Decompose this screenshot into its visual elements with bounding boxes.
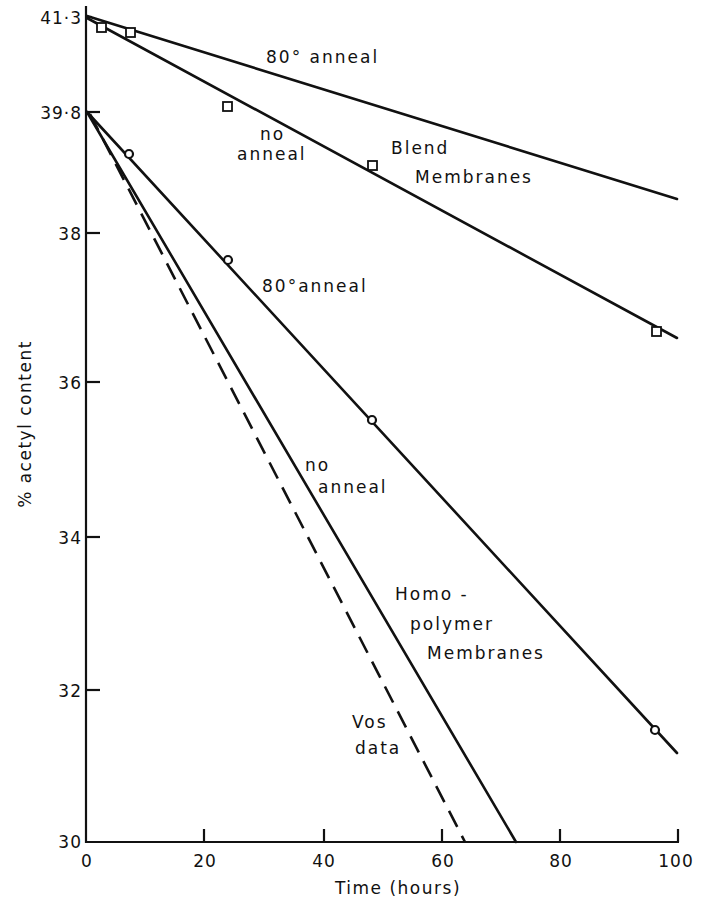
label-homo-no-anneal-1: no bbox=[305, 455, 330, 475]
y-tick-39-8: 39·8 bbox=[40, 103, 82, 123]
annotations: 80° anneal no anneal Blend Membranes 80°… bbox=[237, 47, 545, 758]
x-tick-0: 0 bbox=[81, 851, 93, 871]
label-homo-no-anneal-2: anneal bbox=[318, 477, 388, 497]
y-axis-title: % acetyl content bbox=[15, 340, 35, 508]
x-tick-20: 20 bbox=[193, 851, 217, 871]
y-tick-38: 38 bbox=[58, 224, 82, 244]
marker-circle bbox=[224, 256, 232, 264]
line-blend-no-anneal bbox=[87, 18, 677, 338]
acetyl-content-chart: 30 32 34 36 38 39·8 41·3 0 20 40 60 80 1… bbox=[0, 0, 702, 913]
label-blend-membranes-1: Blend bbox=[391, 138, 449, 158]
label-blend-80-anneal: 80° anneal bbox=[266, 47, 379, 67]
y-tick-30: 30 bbox=[58, 832, 82, 852]
x-tick-100: 100 bbox=[658, 851, 693, 871]
label-blend-membranes-2: Membranes bbox=[415, 167, 533, 187]
line-homo-80-anneal bbox=[87, 112, 677, 753]
marker-square bbox=[652, 327, 661, 336]
marker-square bbox=[97, 23, 106, 32]
marker-circle bbox=[125, 150, 133, 158]
label-homo-80-anneal: 80°anneal bbox=[262, 276, 368, 296]
y-tick-34: 34 bbox=[58, 528, 82, 548]
y-tick-36: 36 bbox=[58, 373, 82, 393]
label-blend-no-anneal-1: no bbox=[260, 124, 285, 144]
line-homo-no-anneal bbox=[87, 112, 516, 842]
label-homo-membranes-1: Homo - bbox=[395, 584, 469, 604]
label-blend-no-anneal-2: anneal bbox=[237, 144, 307, 164]
label-vos-data-1: Vos bbox=[352, 712, 388, 732]
marker-square bbox=[368, 161, 377, 170]
x-tick-80: 80 bbox=[549, 851, 573, 871]
y-tick-labels: 30 32 34 36 38 39·8 41·3 bbox=[40, 8, 82, 852]
y-tick-32: 32 bbox=[58, 681, 82, 701]
marker-circle bbox=[368, 416, 376, 424]
line-blend-80-anneal bbox=[87, 16, 677, 199]
label-vos-data-2: data bbox=[355, 738, 401, 758]
x-tick-60: 60 bbox=[431, 851, 455, 871]
marker-circle bbox=[651, 726, 659, 734]
x-tick-40: 40 bbox=[312, 851, 336, 871]
x-tick-labels: 0 20 40 60 80 100 bbox=[81, 851, 694, 871]
label-homo-membranes-3: Membranes bbox=[427, 643, 545, 663]
y-tick-41-3: 41·3 bbox=[40, 8, 82, 28]
line-vos-data bbox=[90, 114, 465, 842]
label-homo-membranes-2: polymer bbox=[410, 614, 494, 634]
x-axis-title: Time (hours) bbox=[334, 878, 461, 898]
marker-square bbox=[223, 102, 232, 111]
marker-square bbox=[126, 28, 135, 37]
